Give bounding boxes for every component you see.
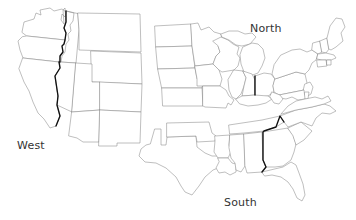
- state-massachusetts: [317, 53, 336, 60]
- state-california: [19, 58, 60, 128]
- region-label-south: South: [224, 196, 257, 209]
- state-kansas: [162, 88, 203, 106]
- state-maine: [327, 18, 345, 50]
- south-region-shapes: [139, 96, 336, 201]
- region-label-west: West: [17, 139, 45, 152]
- state-georgia: [263, 128, 296, 167]
- state-kentucky: [236, 95, 272, 106]
- state-washington: [22, 8, 66, 40]
- state-wyoming: [91, 51, 142, 84]
- state-south-dakota: [156, 46, 195, 69]
- state-colorado: [100, 82, 142, 112]
- west-region-shapes: [18, 8, 142, 146]
- state-florida: [262, 162, 305, 201]
- region-label-north: North: [250, 22, 282, 35]
- us-regions-map: West North South: [0, 0, 356, 220]
- state-arizona: [69, 110, 100, 142]
- state-north-dakota: [155, 24, 192, 47]
- state-rhode-island: [327, 60, 331, 65]
- state-connecticut: [317, 60, 327, 67]
- state-montana: [78, 13, 141, 52]
- map-vector-layer: [0, 0, 356, 220]
- state-new-mexico: [99, 110, 141, 146]
- state-arkansas: [214, 135, 231, 158]
